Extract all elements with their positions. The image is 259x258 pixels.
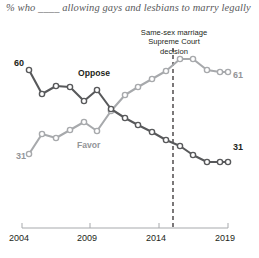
chart-container: % who ____ allowing gays and lesbians to… xyxy=(0,0,259,258)
x-axis-label-2014: 2014 xyxy=(146,233,166,243)
value-label-oppose-end: 31 xyxy=(233,142,243,152)
series-markers-oppose xyxy=(26,67,230,164)
x-axis-label-2019: 2019 xyxy=(215,233,235,243)
value-label-favor-end: 61 xyxy=(233,70,243,80)
series-markers-favor xyxy=(26,56,230,156)
series-label-oppose: Oppose xyxy=(78,68,110,78)
series-line-favor xyxy=(29,59,228,154)
series-line-oppose xyxy=(29,70,228,162)
annotation-line-3: decision xyxy=(118,47,230,56)
value-label-favor-start: 31 xyxy=(16,151,26,161)
x-axis-label-2004: 2004 xyxy=(9,233,29,243)
series-label-favor: Favor xyxy=(77,140,100,150)
annotation-line-1: Same-sex marriage xyxy=(118,28,230,37)
value-label-oppose-start: 60 xyxy=(14,58,24,68)
scotus-decision-annotation: Same-sex marriage Supreme Court decision xyxy=(118,28,230,56)
annotation-line-2: Supreme Court xyxy=(118,37,230,46)
x-axis-label-2009: 2009 xyxy=(77,233,97,243)
